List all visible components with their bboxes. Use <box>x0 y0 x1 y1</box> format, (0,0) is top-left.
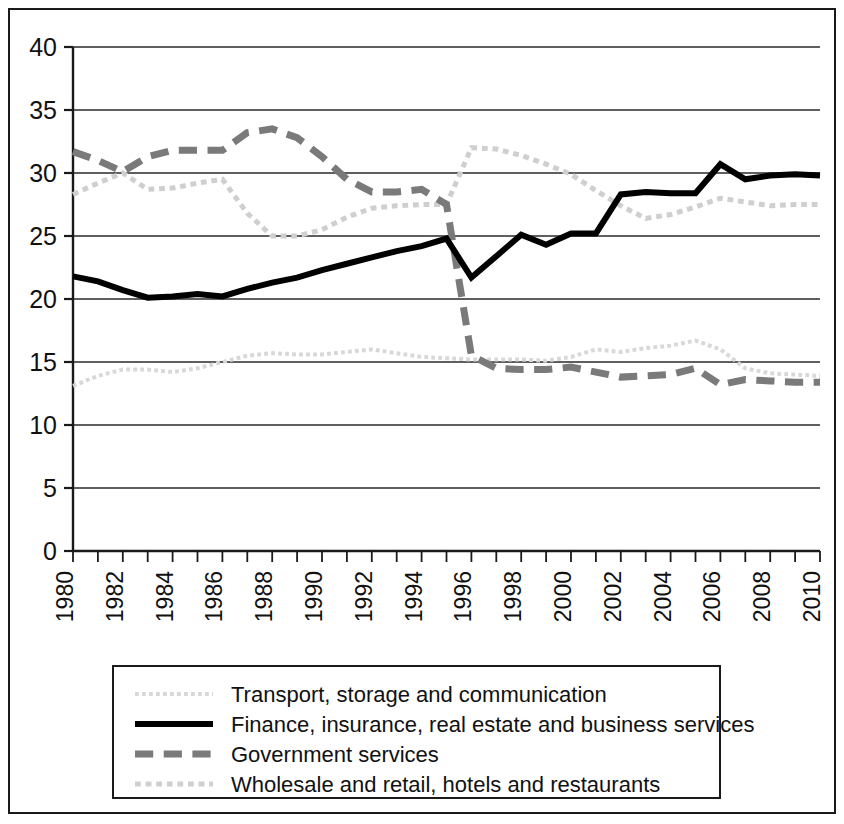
x-tick-label: 2002 <box>600 571 626 622</box>
x-tick-label: 2000 <box>550 571 576 622</box>
data-series <box>73 129 820 386</box>
x-tick-label: 1994 <box>401 571 427 622</box>
x-tick-label: 1986 <box>201 571 227 622</box>
y-tick-label: 10 <box>29 411 57 439</box>
x-tick-label: 1982 <box>102 571 128 622</box>
y-tick-label: 15 <box>29 348 57 376</box>
chart-canvas: 0510152025303540 19801982198419861988199… <box>8 8 836 814</box>
x-tick-label: 1988 <box>251 571 277 622</box>
y-tick-label: 30 <box>29 159 57 187</box>
x-tick-label: 1984 <box>152 571 178 622</box>
legend-label: Wholesale and retail, hotels and restaur… <box>231 772 660 797</box>
line-chart-svg: 0510152025303540 19801982198419861988199… <box>8 8 836 814</box>
y-tick-label: 0 <box>43 537 57 565</box>
y-tick-label: 40 <box>29 33 57 61</box>
x-tick-label: 1996 <box>450 571 476 622</box>
x-tick-label: 1990 <box>301 571 327 622</box>
x-tick-label: 1998 <box>500 571 526 622</box>
x-axis <box>73 551 820 562</box>
legend-label: Finance, insurance, real estate and busi… <box>231 712 754 737</box>
x-tick-label: 2004 <box>650 571 676 622</box>
x-tick-labels: 1980198219841986198819901992199419961998… <box>52 571 825 622</box>
legend-label: Government services <box>231 742 439 767</box>
figure-root: 0510152025303540 19801982198419861988199… <box>0 0 844 824</box>
x-tick-label: 2010 <box>799 571 825 622</box>
y-axis <box>64 47 73 551</box>
chart-legend: Transport, storage and communicationFina… <box>113 666 754 798</box>
y-tick-labels: 0510152025303540 <box>29 33 57 565</box>
x-tick-label: 1980 <box>52 571 78 622</box>
y-tick-label: 25 <box>29 222 57 250</box>
series-line <box>73 148 820 236</box>
gridlines <box>73 47 820 551</box>
y-tick-label: 5 <box>43 474 57 502</box>
x-tick-label: 1992 <box>351 571 377 622</box>
x-tick-label: 2008 <box>749 571 775 622</box>
y-tick-label: 20 <box>29 285 57 313</box>
x-tick-label: 2006 <box>699 571 725 622</box>
legend-label: Transport, storage and communication <box>231 682 607 707</box>
y-tick-label: 35 <box>29 96 57 124</box>
